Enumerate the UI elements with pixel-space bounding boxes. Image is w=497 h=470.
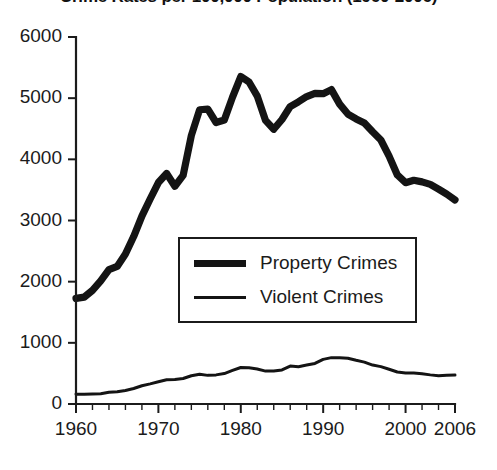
legend-label-property-crimes: Property Crimes <box>260 252 397 274</box>
axis-ticks <box>68 37 455 413</box>
x-axis-tick-label: 2006 <box>425 418 485 440</box>
legend-label-violent-crimes: Violent Crimes <box>260 286 383 308</box>
x-axis-tick-label: 1980 <box>211 418 271 440</box>
legend-item-property-crimes: Property Crimes <box>194 251 397 275</box>
y-axis-tick-label: 2000 <box>0 270 62 292</box>
x-axis-tick-label: 1970 <box>128 418 188 440</box>
chart-legend: Property Crimes Violent Crimes <box>178 237 417 323</box>
y-axis-tick-label: 0 <box>0 392 62 414</box>
legend-item-violent-crimes: Violent Crimes <box>194 285 383 309</box>
y-axis-tick-label: 6000 <box>0 25 62 47</box>
y-axis-tick-label: 3000 <box>0 209 62 231</box>
series-line-violent-crimes <box>76 358 455 395</box>
legend-swatch-violent-crimes <box>194 296 246 299</box>
y-axis-tick-label: 1000 <box>0 331 62 353</box>
plot-area <box>0 0 497 470</box>
y-axis-tick-label: 4000 <box>0 147 62 169</box>
x-axis-tick-label: 1960 <box>46 418 106 440</box>
crime-rate-line-chart: Crime Rates per 100,000 Population (1960… <box>0 0 497 470</box>
legend-swatch-property-crimes <box>194 260 246 267</box>
y-axis-tick-label: 5000 <box>0 86 62 108</box>
x-axis-tick-label: 1990 <box>293 418 353 440</box>
